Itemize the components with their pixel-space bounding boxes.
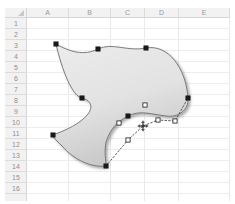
row-header-4[interactable]: 4 <box>5 51 27 62</box>
gridline-horizontal <box>27 149 230 150</box>
row-header-16[interactable]: 16 <box>5 183 27 194</box>
column-header-row: ABCDE <box>27 8 230 18</box>
gridline-vertical <box>178 18 179 201</box>
gridline-horizontal <box>27 138 230 139</box>
row-header-8[interactable]: 8 <box>5 95 27 106</box>
gridline-vertical <box>110 18 111 201</box>
column-header-a[interactable]: A <box>27 8 69 17</box>
gridline-horizontal <box>27 72 230 73</box>
row-header-9[interactable]: 9 <box>5 106 27 117</box>
gridline-horizontal <box>27 193 230 194</box>
row-header-11[interactable]: 11 <box>5 128 27 139</box>
spreadsheet-grid: ABCDE 12345678910111213141516 <box>5 8 230 201</box>
row-header-15[interactable]: 15 <box>5 172 27 183</box>
spreadsheet-drawing-canvas: ABCDE 12345678910111213141516 <box>0 0 235 204</box>
row-header-2[interactable]: 2 <box>5 29 27 40</box>
column-header-e[interactable]: E <box>179 8 230 17</box>
gridline-horizontal <box>27 94 230 95</box>
row-header-13[interactable]: 13 <box>5 150 27 161</box>
gridline-horizontal <box>27 28 230 29</box>
gridline-horizontal <box>27 171 230 172</box>
gridline-horizontal <box>27 160 230 161</box>
gridline-horizontal <box>27 61 230 62</box>
row-header-12[interactable]: 12 <box>5 139 27 150</box>
gridline-horizontal <box>27 50 230 51</box>
select-all-triangle-icon <box>18 10 24 16</box>
column-header-b[interactable]: B <box>69 8 111 17</box>
row-header-7[interactable]: 7 <box>5 84 27 95</box>
gridline-vertical <box>144 18 145 201</box>
cell-grid[interactable] <box>27 18 230 201</box>
column-header-d[interactable]: D <box>145 8 179 17</box>
gridline-horizontal <box>27 127 230 128</box>
row-header-6[interactable]: 6 <box>5 73 27 84</box>
gridline-vertical <box>68 18 69 201</box>
gridline-horizontal <box>27 105 230 106</box>
gridline-horizontal <box>27 39 230 40</box>
column-header-c[interactable]: C <box>111 8 145 17</box>
row-header-column: 12345678910111213141516 <box>5 18 27 201</box>
gridline-horizontal <box>27 83 230 84</box>
row-header-1[interactable]: 1 <box>5 18 27 29</box>
select-all-corner[interactable] <box>5 8 27 18</box>
row-header-3[interactable]: 3 <box>5 40 27 51</box>
row-header-10[interactable]: 10 <box>5 117 27 128</box>
gridline-horizontal <box>27 116 230 117</box>
gridline-horizontal <box>27 182 230 183</box>
gridline-vertical <box>229 18 230 201</box>
row-header-5[interactable]: 5 <box>5 62 27 73</box>
row-header-14[interactable]: 14 <box>5 161 27 172</box>
